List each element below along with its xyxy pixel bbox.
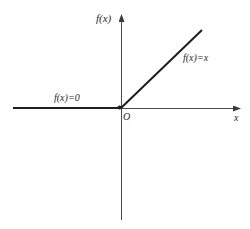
relu-identity-segment [121, 30, 202, 108]
origin-point [118, 106, 122, 110]
x-axis-label: x [234, 113, 238, 123]
zero-segment-label: f(x)=0 [54, 93, 80, 103]
y-axis-label: f(x) [96, 13, 111, 24]
origin-label: O [123, 112, 130, 122]
identity-segment-label: f(x)=x [183, 53, 208, 63]
